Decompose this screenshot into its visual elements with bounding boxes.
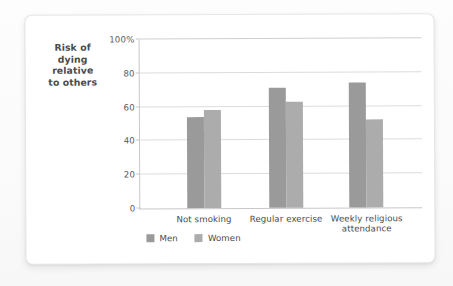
chart-card: Risk of dying relative to others 0204060… — [24, 13, 435, 265]
bar-women-2 — [366, 119, 383, 207]
legend-swatch-women — [195, 234, 203, 242]
bar-men-2 — [349, 82, 367, 207]
legend-label: Women — [208, 233, 241, 243]
bar-group — [349, 38, 384, 207]
y-axis-title-line-2: dying — [34, 53, 112, 65]
y-axis-title-line-1: Risk of — [34, 42, 112, 54]
legend-swatch-men — [146, 234, 154, 242]
bar-men-1 — [269, 88, 287, 208]
x-category-label: Weekly religiousattendance — [319, 213, 415, 234]
y-axis-title-line-4: to others — [34, 76, 112, 88]
bar-group — [186, 39, 221, 208]
y-tick-label-80: 80 — [123, 68, 134, 78]
bars-layer — [140, 38, 423, 208]
legend-item: Men — [146, 233, 177, 243]
bar-women-1 — [286, 101, 303, 208]
y-axis-title-line-3: relative — [34, 65, 112, 77]
x-category-label-line: Weekly religious — [319, 213, 415, 224]
y-tick-label-100: 100% — [109, 34, 134, 44]
bar-group — [268, 39, 303, 208]
y-tick-label-40: 40 — [124, 136, 135, 146]
legend-label: Men — [159, 233, 177, 243]
chart-legend: MenWomen — [146, 233, 240, 243]
chart-figure: Risk of dying relative to others 0204060… — [25, 14, 434, 264]
bar-men-0 — [187, 117, 204, 208]
y-tick-label-0: 0 — [130, 203, 136, 213]
legend-item: Women — [195, 233, 241, 243]
y-tick-label-20: 20 — [124, 170, 135, 180]
bar-women-0 — [204, 110, 221, 208]
y-axis-title: Risk of dying relative to others — [34, 42, 112, 89]
y-tick-label-60: 60 — [123, 102, 134, 112]
plot-area: 020406080100% Not smokingRegular exercis… — [139, 38, 423, 209]
x-category-label-line: attendance — [319, 224, 415, 235]
